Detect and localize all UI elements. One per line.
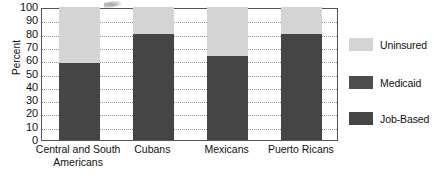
- bar-segment-uninsured: [207, 7, 248, 56]
- bar-segment-job-based: [133, 34, 174, 140]
- y-axis-tick: 90: [8, 15, 38, 26]
- legend-swatch: [349, 76, 373, 89]
- bar-segment-job-based: [281, 34, 322, 140]
- plot-area: [41, 8, 338, 141]
- bar-segment-uninsured: [133, 7, 174, 34]
- bar-segment-uninsured: [59, 7, 100, 63]
- legend-label: Job-Based: [380, 113, 429, 125]
- stacked-bar-chart: Percent 1009080706050403020100 Central a…: [0, 0, 434, 177]
- chart-legend: UninsuredMedicaidJob-Based: [349, 8, 434, 141]
- x-axis-tick-line: Americans: [29, 156, 127, 169]
- y-axis-tick: 80: [8, 29, 38, 40]
- legend-item[interactable]: Uninsured: [349, 38, 427, 51]
- bar: [281, 7, 322, 140]
- legend-swatch: [349, 38, 373, 51]
- x-axis-tick-labels: Central and SouthAmericansCubansMexicans…: [41, 143, 338, 177]
- y-axis-tick: 30: [8, 95, 38, 106]
- y-axis-tick: 20: [8, 108, 38, 119]
- x-axis-tick: Puerto Ricans: [252, 143, 350, 156]
- y-axis-tick: 60: [8, 55, 38, 66]
- y-axis-tick-labels: 1009080706050403020100: [8, 8, 38, 141]
- bar: [133, 7, 174, 140]
- y-axis-tick: 70: [8, 42, 38, 53]
- x-axis-tick-line: Puerto Ricans: [252, 143, 350, 156]
- legend-item[interactable]: Medicaid: [349, 76, 421, 89]
- y-axis-tick: 40: [8, 82, 38, 93]
- legend-swatch: [349, 112, 373, 125]
- legend-item[interactable]: Job-Based: [349, 112, 429, 125]
- bar-segment-job-based: [59, 63, 100, 140]
- legend-label: Uninsured: [380, 39, 427, 51]
- bar-segment-job-based: [207, 56, 248, 140]
- bar: [59, 7, 100, 140]
- legend-label: Medicaid: [380, 77, 421, 89]
- bar: [207, 7, 248, 140]
- y-axis-tick: 10: [8, 122, 38, 133]
- y-axis-tick: 50: [8, 69, 38, 80]
- scan-artifact: [104, 1, 121, 8]
- bar-group: [42, 9, 337, 140]
- bar-segment-uninsured: [281, 7, 322, 34]
- y-axis-tick: 100: [8, 2, 38, 13]
